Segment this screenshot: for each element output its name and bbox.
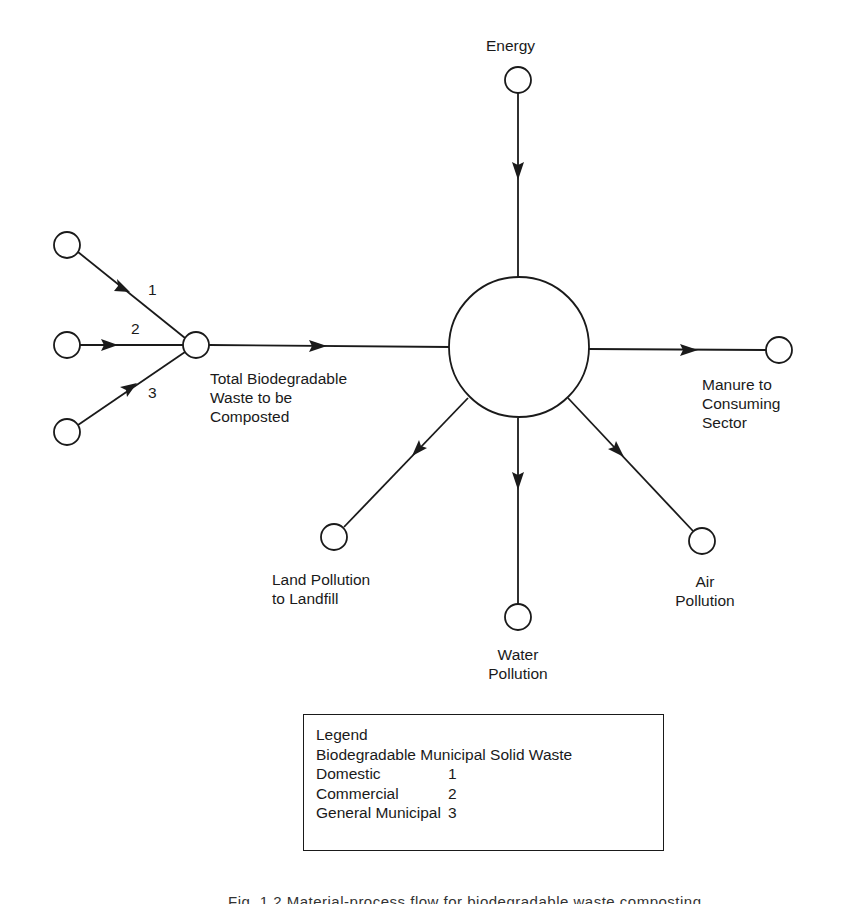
edge-source-3 xyxy=(78,352,185,425)
node-air xyxy=(689,528,715,554)
node-source-2 xyxy=(54,332,80,358)
label-water-line-1: Water xyxy=(478,645,558,664)
label-manure-line-3: Sector xyxy=(702,413,780,432)
legend-row: General Municipal 3 xyxy=(316,803,663,823)
edge-junction-process xyxy=(209,340,450,352)
label-water-line-2: Pollution xyxy=(478,664,558,683)
label-air: Air Pollution xyxy=(660,572,750,610)
legend-row: Domestic 1 xyxy=(316,764,663,784)
node-junction xyxy=(183,332,209,358)
legend-title: Legend xyxy=(316,725,663,745)
node-manure xyxy=(766,337,792,363)
node-water xyxy=(505,604,531,630)
label-manure-line-2: Consuming xyxy=(702,394,780,413)
figure-caption: Fig. 1.2 Material-process flow for biode… xyxy=(228,893,702,904)
label-junction-line-3: Composted xyxy=(210,407,347,426)
label-junction: Total Biodegradable Waste to be Composte… xyxy=(210,369,347,426)
edge-label-1: 1 xyxy=(148,281,157,299)
edge-process-manure xyxy=(589,344,766,356)
label-air-line-2: Pollution xyxy=(660,591,750,610)
edge-label-2: 2 xyxy=(131,320,140,338)
label-land: Land Pollution to Landfill xyxy=(272,570,370,608)
node-land xyxy=(321,524,347,550)
edge-process-land xyxy=(344,398,468,527)
label-water: Water Pollution xyxy=(478,645,558,683)
legend-item-name: Domestic xyxy=(316,764,448,784)
node-energy xyxy=(505,67,531,93)
legend-box: Legend Biodegradable Municipal Solid Was… xyxy=(303,714,664,851)
label-land-line-1: Land Pollution xyxy=(272,570,370,589)
legend-item-name: General Municipal xyxy=(316,803,448,823)
label-energy: Energy xyxy=(486,36,535,55)
node-source-1 xyxy=(54,232,80,258)
node-process xyxy=(449,277,589,417)
arrow-icon xyxy=(114,279,130,292)
label-air-line-1: Air xyxy=(660,572,750,591)
label-land-line-2: to Landfill xyxy=(272,589,370,608)
label-junction-line-1: Total Biodegradable xyxy=(210,369,347,388)
edge-process-air xyxy=(568,398,693,531)
label-junction-line-2: Waste to be xyxy=(210,388,347,407)
node-source-3 xyxy=(54,419,80,445)
edge-energy-process xyxy=(512,93,524,277)
edge-process-water xyxy=(512,418,524,604)
legend-item-name: Commercial xyxy=(316,784,448,804)
label-manure: Manure to Consuming Sector xyxy=(702,375,780,432)
legend-row: Commercial 2 xyxy=(316,784,663,804)
legend-item-code: 1 xyxy=(448,764,457,784)
legend-item-code: 2 xyxy=(448,784,457,804)
edge-source-2 xyxy=(80,339,183,351)
legend-subtitle: Biodegradable Municipal Solid Waste xyxy=(316,745,663,765)
legend-item-code: 3 xyxy=(448,803,457,823)
edge-label-3: 3 xyxy=(148,384,157,402)
label-manure-line-1: Manure to xyxy=(702,375,780,394)
